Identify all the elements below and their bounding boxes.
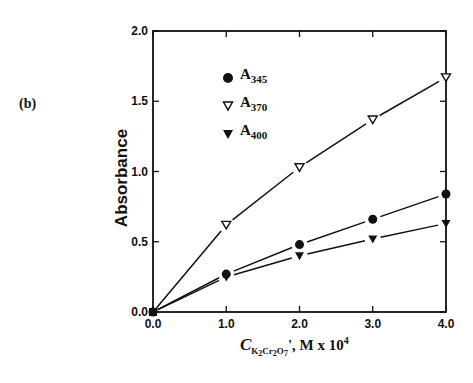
series-line-a370: [156, 231, 221, 308]
series-line-a370: [306, 124, 366, 163]
filled-circle-marker-icon: [222, 72, 234, 84]
y-tick-label: 2.0: [131, 24, 148, 38]
x-tick-label: 4.0: [438, 317, 455, 331]
data-point-a370: [222, 221, 231, 229]
series-line-a345: [380, 197, 438, 217]
x-tick-label: 2.0: [291, 317, 308, 331]
data-point-a400: [295, 252, 304, 260]
series-line-a345: [234, 248, 292, 272]
data-point-a345: [368, 215, 377, 224]
data-point-a370: [442, 74, 451, 82]
series-line-a400: [234, 258, 292, 275]
y-tick-label: 1.0: [131, 165, 148, 179]
x-tick-label: 3.0: [364, 317, 381, 331]
series-line-a400: [381, 225, 439, 237]
data-point-a345: [442, 189, 451, 198]
data-point-a400: [368, 235, 377, 243]
y-tick-label: 0.5: [131, 235, 148, 249]
series-line-a370: [380, 81, 439, 115]
x-tick-label: 0.0: [145, 317, 162, 331]
origin-point: [149, 308, 157, 316]
data-point-a345: [295, 240, 304, 249]
data-point-a370: [295, 164, 304, 172]
chart-canvas: 0.01.02.03.04.00.00.51.01.52.0: [0, 0, 473, 383]
x-tick-label: 1.0: [218, 317, 235, 331]
series-line-a400: [307, 241, 365, 254]
legend-label: A370: [240, 94, 267, 113]
legend-label: A400: [240, 122, 267, 141]
y-tick-label: 0.0: [131, 305, 148, 319]
open-down-triangle-marker-icon: [222, 100, 234, 112]
data-point-a400: [442, 220, 451, 228]
series-line-a370: [233, 172, 294, 220]
filled-down-triangle-marker-icon: [222, 128, 234, 140]
legend-label: A345: [240, 66, 267, 85]
y-tick-label: 1.5: [131, 94, 148, 108]
data-point-a400: [222, 273, 231, 281]
series-line-a345: [307, 222, 365, 242]
data-point-a370: [368, 116, 377, 124]
